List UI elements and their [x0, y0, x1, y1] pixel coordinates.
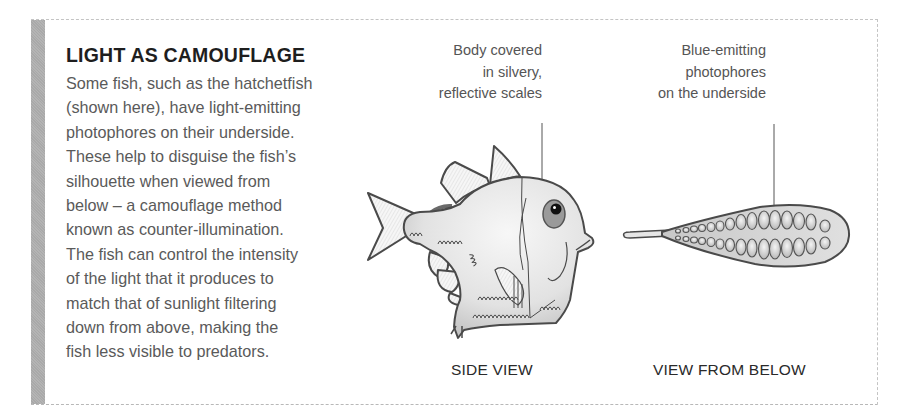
hatchetfish-below-view	[624, 205, 849, 266]
hatchetfish-side-view	[368, 146, 593, 338]
illustration	[0, 0, 899, 414]
